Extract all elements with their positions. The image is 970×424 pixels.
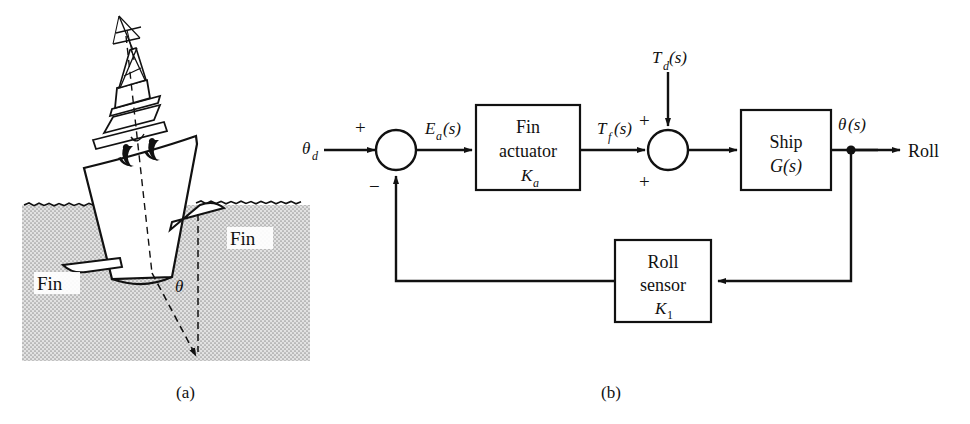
caption-panel-a: (a) bbox=[176, 383, 195, 402]
error-signal-arg: (s) bbox=[443, 119, 461, 138]
error-junction-minus-sign: − bbox=[369, 176, 380, 197]
disturbance-junction-plus-bottom: + bbox=[639, 171, 650, 192]
fin-actuator-line1: Fin bbox=[516, 117, 540, 137]
disturbance-junction-plus-top: + bbox=[639, 110, 650, 131]
fin-torque-symbol: T bbox=[597, 119, 608, 138]
reference-input-symbol: θ bbox=[302, 139, 310, 158]
roll-sensor-gain: K bbox=[654, 299, 668, 318]
fin-actuator-gain-subscript: a bbox=[533, 176, 539, 190]
fin-torque-arg: (s) bbox=[614, 119, 632, 138]
disturbance-symbol: T bbox=[652, 48, 663, 67]
disturbance-junction bbox=[648, 130, 688, 170]
roll-sensor-line2: sensor bbox=[640, 275, 686, 295]
roll-angle-label: θ bbox=[175, 277, 183, 296]
fin-torque-label: T f (s) bbox=[597, 119, 632, 144]
error-signal-subscript: a bbox=[436, 129, 442, 143]
fin-right-label-text: Fin bbox=[230, 228, 256, 249]
figure-canvas: Fin Fin θ (a) θ d + − E a (s) bbox=[0, 0, 970, 424]
output-signal-arg: (s) bbox=[848, 115, 866, 134]
reference-input-subscript: d bbox=[312, 149, 319, 163]
error-junction-plus-sign: + bbox=[355, 117, 366, 138]
roll-sensor-gain-subscript: 1 bbox=[667, 308, 673, 322]
error-junction bbox=[376, 130, 416, 170]
fin-torque-subscript: f bbox=[608, 130, 613, 144]
output-signal-label: θ (s) bbox=[838, 115, 866, 134]
disturbance-input-label: T d (s) bbox=[652, 48, 687, 73]
caption-panel-b: (b) bbox=[601, 383, 621, 402]
disturbance-arg: (s) bbox=[669, 48, 687, 67]
error-signal-symbol: E bbox=[424, 119, 436, 138]
fin-actuator-gain: K bbox=[520, 166, 534, 185]
fin-right-label: Fin bbox=[227, 227, 273, 249]
ship-block-line2: G(s) bbox=[770, 156, 802, 177]
fin-actuator-line2: actuator bbox=[499, 141, 557, 161]
output-signal-symbol: θ bbox=[838, 115, 846, 134]
fin-left-label: Fin bbox=[34, 272, 80, 294]
figure-root: Fin Fin θ (a) θ d + − E a (s) bbox=[0, 0, 970, 424]
error-signal-label: E a (s) bbox=[424, 119, 461, 143]
fin-left-label-text: Fin bbox=[37, 273, 63, 294]
panel-a-ship-illustration: Fin Fin θ (a) bbox=[22, 16, 310, 402]
roll-output-label: Roll bbox=[908, 141, 939, 161]
panel-b-block-diagram: θ d + − E a (s) Fin actuator K a T f (s) bbox=[302, 48, 939, 402]
reference-input-label: θ d bbox=[302, 139, 319, 163]
roll-sensor-line1: Roll bbox=[647, 252, 678, 272]
feedback-wire-left bbox=[396, 176, 615, 281]
ship-block-line1: Ship bbox=[769, 132, 802, 152]
ship-yard-upper bbox=[116, 27, 141, 33]
